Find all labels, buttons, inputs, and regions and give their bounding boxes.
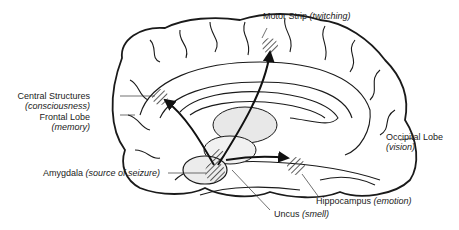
hippocampus-region [287, 157, 305, 175]
label-frontal-lobe: Frontal Lobe (memory) [0, 112, 90, 132]
label-central-structures: Central Structures (consciousness) [0, 91, 90, 111]
label-amygdala: Amygdala (source of seizure) [43, 168, 160, 178]
label-motor-strip: Motor Strip (twitching) [263, 11, 351, 21]
central-structures-region [152, 89, 168, 105]
label-hippocampus: Hippocampus (emotion) [316, 196, 412, 206]
label-occipital-lobe: Occipital Lobe (vision) [386, 132, 443, 152]
motor-strip-region [262, 38, 278, 54]
amygdala-region [205, 162, 225, 182]
label-uncus: Uncus (smell) [274, 209, 329, 219]
